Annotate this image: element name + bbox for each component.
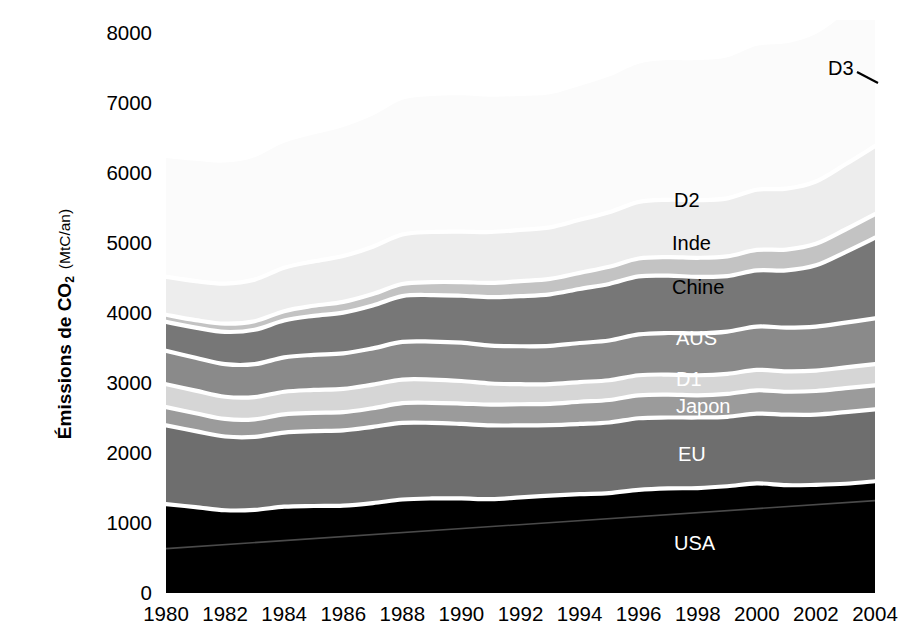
series-label-japon: Japon xyxy=(676,396,731,416)
y-tick-2000: 2000 xyxy=(2,443,152,464)
series-label-d1: D1 xyxy=(676,369,702,389)
series-label-d3: D3 xyxy=(828,58,854,78)
y-tick-7000: 7000 xyxy=(2,93,152,114)
series-label-inde: Inde xyxy=(672,233,711,253)
y-tick-3000: 3000 xyxy=(2,373,152,394)
co2-emissions-stacked-area-chart: Émissions de CO2 (MtC/an) 8000 7000 6000… xyxy=(0,0,908,642)
y-tick-0: 0 xyxy=(2,583,152,604)
y-tick-8000: 8000 xyxy=(2,23,152,44)
y-tick-5000: 5000 xyxy=(2,233,152,254)
series-label-d2: D2 xyxy=(674,190,700,210)
y-tick-6000: 6000 xyxy=(2,163,152,184)
d3-leader-line xyxy=(856,68,882,86)
stacked-area-svg xyxy=(166,20,875,593)
plot-area xyxy=(166,20,875,593)
y-tick-1000: 1000 xyxy=(2,513,152,534)
series-label-chine: Chine xyxy=(672,277,724,297)
y-tick-4000: 4000 xyxy=(2,303,152,324)
series-label-usa: USA xyxy=(674,533,715,553)
y-axis-tick-labels: 8000 7000 6000 5000 4000 3000 2000 1000 … xyxy=(0,0,152,642)
series-label-eu: EU xyxy=(678,444,706,464)
x-tick-2004: 2004 xyxy=(840,604,908,625)
series-label-aus: AUS xyxy=(676,328,717,348)
